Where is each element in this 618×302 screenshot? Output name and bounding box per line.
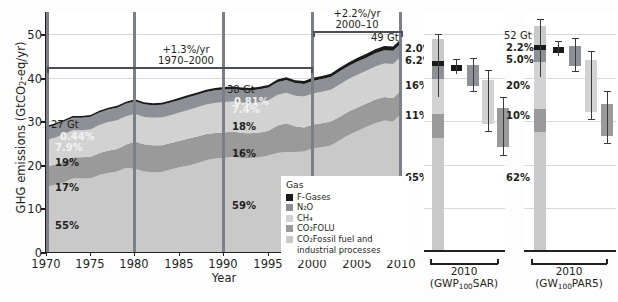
legend-swatch-f-gases [286,194,293,201]
growth-rate-1970-2000-value: +1.3%/yr [126,44,246,55]
figure-root: GHG emissions (GtCO2-eq/yr) 0 10 20 30 4… [0,0,618,302]
panel-gwp100sar [424,12,505,252]
growth-rate-1970-2000-cap-left [47,67,49,73]
panel1-baseline [424,250,505,253]
panel2-share-n2o: 5.0% [506,54,534,65]
panel2-float-ch4-errorcap-bottom [588,119,595,120]
panel2-float-ch4-errorbar [591,52,592,120]
share-1970-f-gases: 0.44% [60,131,95,142]
x-tick-mark-1990 [223,252,224,256]
share-1990-ch4: 18% [232,121,256,132]
legend-label-n2o: N₂O [297,202,404,213]
panel2-float-co2-folu-errorbar [607,92,608,144]
legend-item-ch4[interactable]: CH₄ [286,213,404,224]
legend-label-f-gases: F-Gases [297,192,404,203]
legend-swatch-co2-fossil [286,236,293,243]
legend-item-co2-folu[interactable]: CO₂FOLU [286,223,404,234]
growth-rate-2000-2010-cap-right [401,31,403,37]
x-axis-title: Year [46,271,402,285]
panel1-float-ch4-errorcap-top [485,70,492,71]
panel1-bar-co2-folu [432,114,444,138]
growth-rate-1970-2000-bar [47,67,312,69]
panel1-float-ch4-errorbar [488,71,489,132]
x-tick-mark-1970 [46,252,47,256]
panel2-title-year: 2010 [519,266,618,278]
panel2-bracket-cap-right [606,259,608,264]
legend-title: Gas [286,180,404,191]
panel2-errorcap-total-top [537,19,544,20]
x-tick-1975: 1975 [70,257,110,271]
panel1-float-co2-folu-errorcap-top [500,97,507,98]
legend-label-co2-folu: CO₂FOLU [297,223,404,234]
total-label-1990: 38 Gt [227,84,255,95]
marker-line-1970 [46,12,49,252]
y-tick-20: 20 [16,159,42,173]
y-tick-30: 30 [16,115,42,129]
share-1970-co2-folu: 17% [55,182,79,193]
panel1-float-co2-folu-errorcap-bottom [500,155,507,156]
x-tick-1970: 1970 [26,257,66,271]
x-tick-1990: 1990 [203,257,243,271]
growth-rate-1970-2000-cap-right [311,67,313,73]
panel2-float-n2o-errorcap-top [572,38,579,39]
growth-rate-2000-2010-period: 2000–10 [297,19,417,30]
panel1-title: 2010 (GWP100SAR) [414,266,514,292]
y-tick-50: 50 [16,28,42,42]
growth-rate-2000-2010-cap-left [313,31,315,37]
panel1-errorcap-total-top [435,34,442,35]
panel2-bar-co2-folu [534,109,546,132]
legend-item-co2-fossil[interactable]: CO₂Fossil fuel and industrial processes [286,234,404,255]
legend-swatch-ch4 [286,215,293,222]
legend-label-ch4: CH₄ [297,213,404,224]
panel2-float-n2o-errorcap-bottom [572,71,579,72]
panel1-bracket-cap-right [497,259,499,264]
panel2-share-co2-fossil: 62% [506,172,530,183]
panel1-float-n2o-errorcap-top [470,58,477,59]
panel2-float-co2-folu-errorcap-bottom [604,143,611,144]
panel2-errorbar-total [540,20,541,77]
panel2-share-ch4: 20% [506,80,530,91]
share-1990-n2o: 7.4% [232,104,260,115]
panel1-float-co2-folu-errorbar [503,98,504,156]
share-1990-co2-folu: 16% [232,148,256,159]
x-tick-mark-1995 [268,252,269,256]
growth-rate-1970-2000-period: 1970–2000 [126,55,246,66]
panel2-title: 2010 (GW100PAR5) [519,266,618,292]
panel2-share-co2-folu: 10% [506,110,530,121]
x-tick-1985: 1985 [159,257,199,271]
panel1-float-n2o-errorcap-bottom [470,91,477,92]
x-tick-mark-1980 [134,252,135,256]
panel2-float-ch4-errorcap-top [588,51,595,52]
legend-label-co2-fossil-2: industrial processes [297,245,381,255]
legend-item-f-gases[interactable]: F-Gases [286,192,404,203]
growth-rate-1970-2000: +1.3%/yr 1970–2000 [126,44,246,66]
share-1990-co2-fossil: 59% [232,200,256,211]
panel2-baseline [524,250,616,253]
panel1-float-ch4-errorcap-bottom [485,131,492,132]
panel2-float-co2-folu-errorcap-top [604,91,611,92]
x-tick-mark-1975 [90,252,91,256]
y-tick-40: 40 [16,72,42,86]
share-1970-co2-fossil: 55% [55,220,79,231]
legend-swatch-n2o [286,204,293,211]
share-1970-n2o: 7.9% [55,142,83,153]
panel1-title-metric: (GWP100SAR) [414,278,514,292]
legend-label-co2-fossil: CO₂Fossil fuel and [297,234,373,244]
panel2-total-label: 52 Gt [504,30,532,41]
x-tick-mark-1985 [179,252,180,256]
x-tick-1980: 1980 [114,257,154,271]
panel-gwp100ar5 [524,12,616,252]
legend-swatch-co2-folu [286,225,293,232]
panel1-float-f-gases-errorcap-top [453,59,460,60]
panel1-float-n2o-errorbar [473,59,474,92]
panel1-errorbar-total [438,35,439,97]
panel2-share-f-gases: 2.2% [506,42,534,53]
legend-item-n2o[interactable]: N₂O [286,202,404,213]
total-label-2010: 49 Gt [371,32,399,43]
y-tick-10: 10 [16,202,42,216]
panel2-bracket-cap-left [531,259,533,264]
panel2-title-metric: (GW100PAR5) [519,278,618,292]
legend: Gas F-Gases N₂O CH₄ CO₂FOLU CO₂Fossil fu… [281,176,409,260]
share-1970-ch4: 19% [55,157,79,168]
total-label-1970: 27 Gt [51,119,79,130]
